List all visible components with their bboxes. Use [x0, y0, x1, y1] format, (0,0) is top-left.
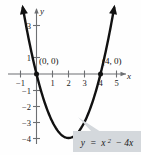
- curve-arrowhead-left: [20, 5, 28, 15]
- equation-base: x: [100, 138, 106, 148]
- y-tick-label--2: −2: [22, 102, 31, 112]
- equation-tail: − 4x: [115, 138, 134, 148]
- y-tick-label-1: 1: [27, 53, 31, 63]
- x-tick-label-1: 1: [50, 78, 54, 88]
- equation-equals: =: [90, 138, 96, 148]
- intercept-label-origin: (0, 0): [39, 56, 59, 66]
- intercept-dot-origin: [34, 72, 39, 77]
- intercept-dot-four: [98, 72, 103, 77]
- y-tick-label--4: −4: [22, 134, 32, 144]
- y-tick-label--1: −1: [22, 86, 31, 96]
- y-axis-label: y: [39, 6, 44, 16]
- x-tick-label-3: 3: [82, 78, 86, 88]
- equation-exponent: 2: [108, 137, 112, 144]
- graph-canvas: −1 1 2 3 4 5 3 1 −1 −2 −3 −4 y x (0, 0) …: [0, 0, 141, 155]
- y-axis-arrowhead: [34, 8, 38, 14]
- x-axis-arrowhead: [121, 72, 127, 76]
- x-tick-label-2: 2: [66, 78, 70, 88]
- x-tick-label-5: 5: [114, 78, 118, 88]
- parabola-graph-figure: −1 1 2 3 4 5 3 1 −1 −2 −3 −4 y x (0, 0) …: [0, 0, 141, 155]
- curve-arrowhead-right: [109, 5, 117, 15]
- equation-lhs: y: [80, 138, 86, 148]
- intercept-label-four: (4, 0): [102, 56, 122, 66]
- y-tick-label--3: −3: [22, 118, 31, 128]
- x-axis-label: x: [126, 71, 131, 81]
- callout-pointer: [78, 117, 101, 132]
